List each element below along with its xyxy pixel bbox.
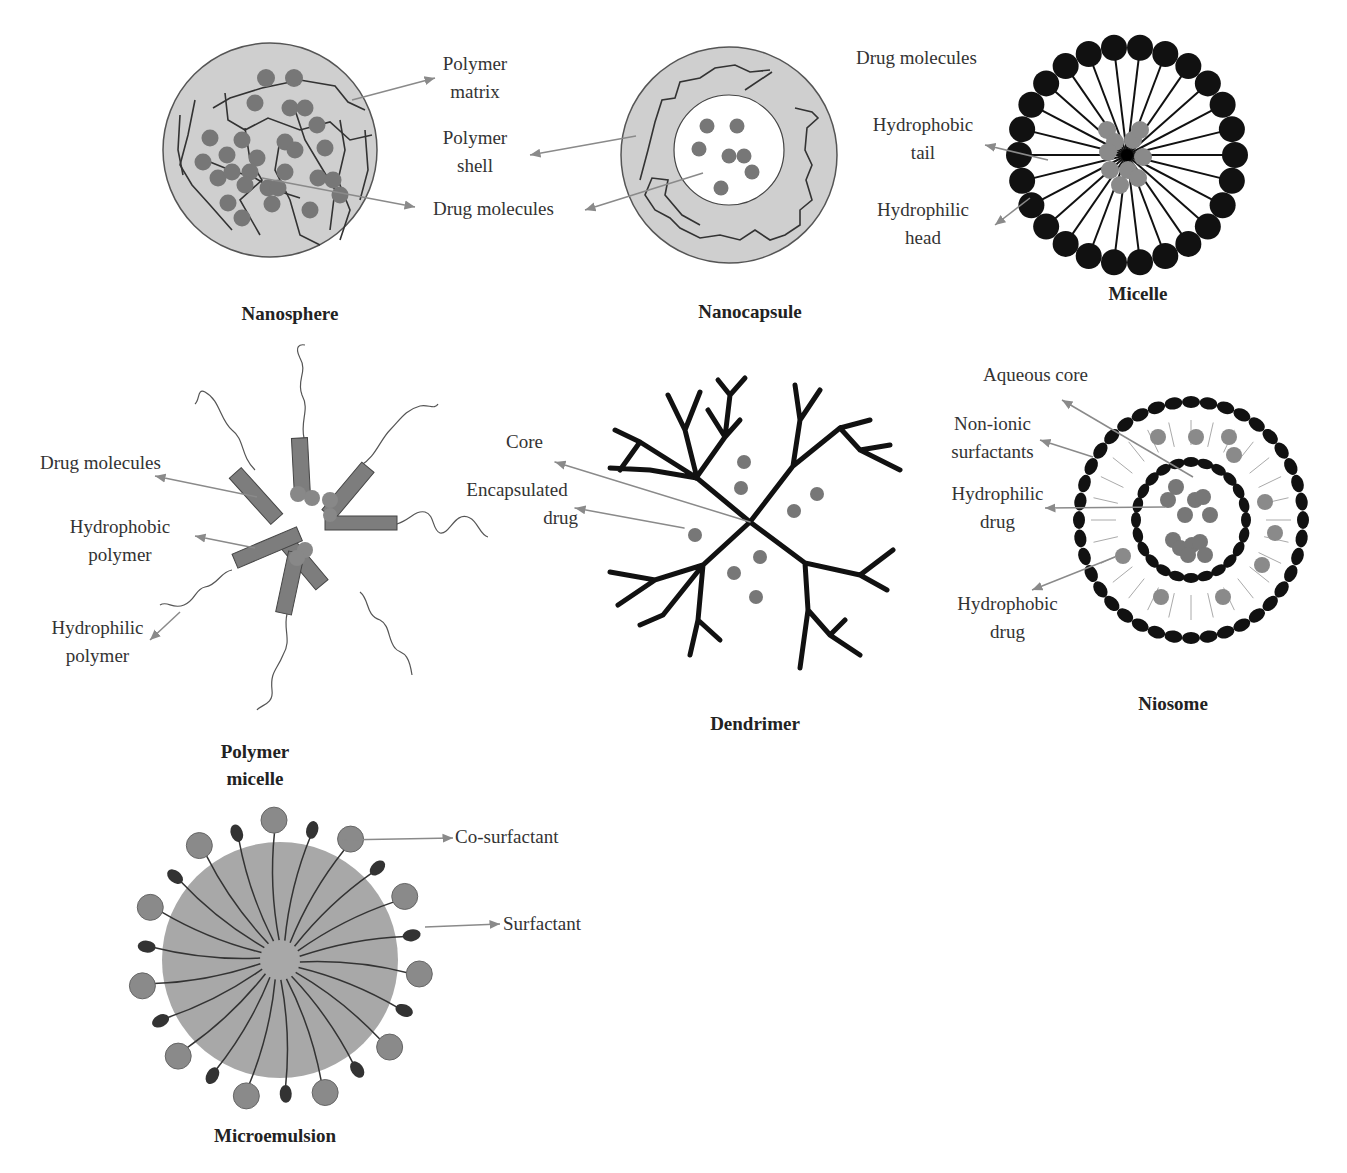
label-hydrophilic-drug: Hydrophilic drug <box>935 480 1060 536</box>
label-line: shell <box>420 152 530 180</box>
polymer-micelle-figure <box>150 345 488 710</box>
label-hydrophobic-polymer: Hydrophobic polymer <box>55 513 185 569</box>
label-hydrophilic-head: Hydrophilic head <box>858 196 988 252</box>
label-polymer-shell: Polymer shell <box>420 124 530 180</box>
label-non-ionic-surfactants: Non-ionic surfactants <box>935 410 1050 466</box>
label-line: Hydrophilic <box>858 196 988 224</box>
label-line: Non-ionic <box>935 410 1050 438</box>
label-line: surfactants <box>935 438 1050 466</box>
label-core: Core <box>506 428 543 456</box>
title-nanosphere: Nanosphere <box>190 300 390 327</box>
label-line: Hydrophobic <box>940 590 1075 618</box>
title-line: Polymer <box>180 738 330 765</box>
label-hydrophobic-tail: Hydrophobic tail <box>858 111 988 167</box>
title-micelle: Micelle <box>1078 280 1198 307</box>
label-drug-molecules-micelle: Drug molecules <box>856 44 977 72</box>
label-line: Polymer <box>420 50 530 78</box>
label-line: Hydrophobic <box>858 111 988 139</box>
title-polymer-micelle: Polymer micelle <box>180 738 330 792</box>
label-line: Encapsulated <box>452 476 582 504</box>
label-hydrophilic-polymer: Hydrophilic polymer <box>35 614 160 670</box>
label-line: Polymer <box>420 124 530 152</box>
label-line: tail <box>858 139 988 167</box>
title-nanocapsule: Nanocapsule <box>650 298 850 325</box>
label-line: polymer <box>35 642 160 670</box>
label-hydrophobic-drug: Hydrophobic drug <box>940 590 1075 646</box>
diagram-canvas <box>0 0 1347 1173</box>
nanocapsule-figure <box>530 47 837 263</box>
microemulsion-figure <box>129 807 500 1109</box>
label-line: Hydrophilic <box>35 614 160 642</box>
label-co-surfactant: Co-surfactant <box>455 823 558 851</box>
label-line: polymer <box>55 541 185 569</box>
label-line: Hydrophilic <box>935 480 1060 508</box>
dendrimer-figure <box>555 378 900 668</box>
label-line: matrix <box>420 78 530 106</box>
label-line: head <box>858 224 988 252</box>
label-line: drug <box>935 508 1060 536</box>
label-surfactant: Surfactant <box>503 910 581 938</box>
title-line: micelle <box>180 765 330 792</box>
label-drug-molecules-nanosphere: Drug molecules <box>433 195 554 223</box>
micelle-figure <box>985 35 1248 275</box>
label-line: Hydrophobic <box>55 513 185 541</box>
title-microemulsion: Microemulsion <box>175 1122 375 1149</box>
title-dendrimer: Dendrimer <box>655 710 855 737</box>
nanosphere-figure <box>163 43 435 257</box>
label-polymer-matrix: Polymer matrix <box>420 50 530 106</box>
label-line: drug <box>940 618 1075 646</box>
title-niosome: Niosome <box>1113 690 1233 717</box>
label-line: drug <box>452 504 582 532</box>
label-encapsulated-drug: Encapsulated drug <box>452 476 582 532</box>
label-drug-molecules-polymer-micelle: Drug molecules <box>40 449 161 477</box>
label-aqueous-core: Aqueous core <box>983 361 1088 389</box>
